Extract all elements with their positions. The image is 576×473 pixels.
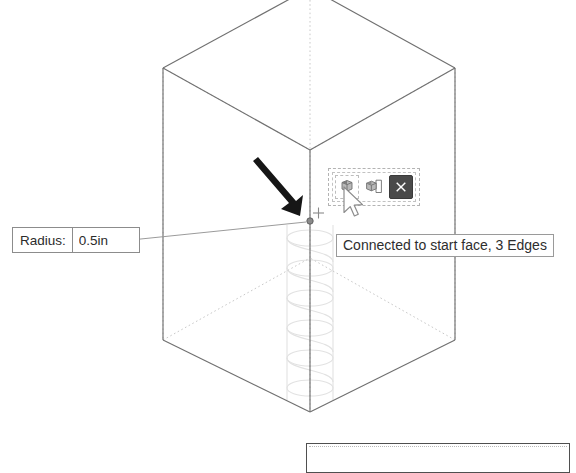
crosshair-marker xyxy=(313,208,324,219)
radius-input[interactable] xyxy=(79,233,131,248)
bottom-panel-inner xyxy=(309,446,567,470)
status-tooltip: Connected to start face, 3 Edges xyxy=(336,234,554,257)
snap-point-marker xyxy=(307,218,313,224)
radius-value-wrap[interactable] xyxy=(73,228,139,252)
close-x-icon xyxy=(393,179,409,195)
radius-callout[interactable]: Radius: xyxy=(12,227,140,253)
mini-toolbar[interactable] xyxy=(328,168,420,206)
pointer-arrow-icon xyxy=(253,157,303,216)
mouse-pointer-icon xyxy=(343,186,369,224)
close-x-icon-button[interactable] xyxy=(389,175,413,199)
radius-label: Radius: xyxy=(13,228,72,252)
radius-leader-line xyxy=(126,222,306,243)
bottom-partial-panel[interactable] xyxy=(306,443,570,473)
